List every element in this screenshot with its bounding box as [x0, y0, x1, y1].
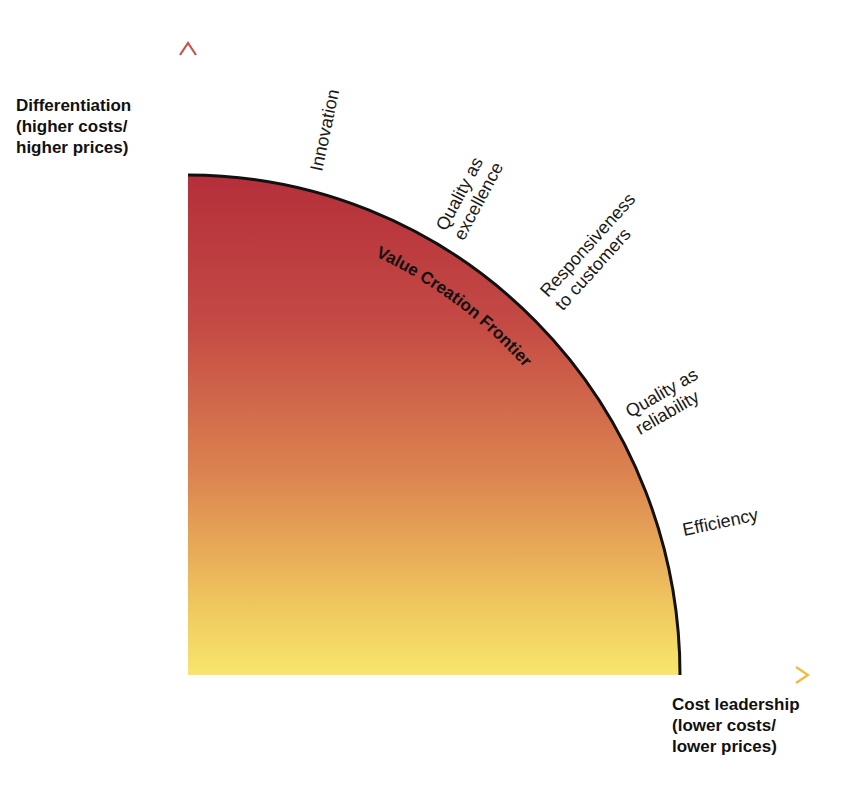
y-axis-label-line: (higher costs/ — [16, 116, 131, 137]
x-axis-label-line: (lower costs/ — [672, 715, 800, 736]
y-axis-label-line: Differentiation — [16, 95, 131, 116]
svg-text:Quality as excellence: Quality as excellence — [432, 149, 507, 243]
driver-efficiency: Efficiency — [681, 504, 760, 540]
svg-text:Efficiency: Efficiency — [681, 504, 760, 540]
driver-responsiveness: Responsiveness to customers — [536, 185, 657, 314]
driver-quality-reliability: Quality as reliability — [622, 362, 716, 439]
value-creation-frontier-diagram: Value Creation Frontier Innovation Quali… — [0, 0, 852, 801]
driver-quality-excellence: Quality as excellence — [432, 149, 507, 243]
y-axis-label: Differentiation (higher costs/ higher pr… — [16, 95, 131, 158]
x-axis-label-line: lower prices) — [672, 736, 800, 757]
svg-text:Responsiveness to cust: Responsiveness to customers — [536, 185, 657, 314]
driver-innovation: Innovation — [306, 87, 343, 172]
svg-text:Quality as reliability: Quality as reliability — [622, 362, 716, 439]
y-axis-label-line: higher prices) — [16, 137, 131, 158]
x-axis-label: Cost leadership (lower costs/ lower pric… — [672, 694, 800, 757]
x-axis-label-line: Cost leadership — [672, 694, 800, 715]
svg-text:Innovation: Innovation — [306, 87, 343, 172]
